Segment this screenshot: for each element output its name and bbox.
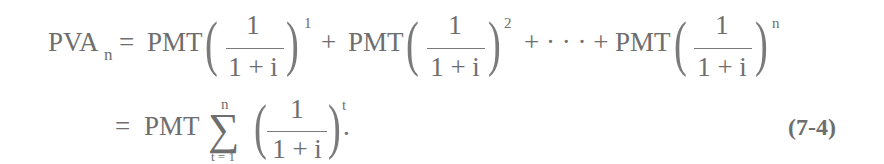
equals-sign: = — [115, 113, 130, 140]
exponent-n: n — [772, 16, 780, 31]
close-paren: ) — [488, 12, 501, 74]
equals-sign: = — [119, 29, 134, 56]
numerator: 1 — [715, 12, 729, 39]
denominator: 1 + i — [697, 54, 747, 81]
close-paren: ) — [328, 95, 341, 157]
pmt-term-1: PMT — [147, 29, 203, 56]
numerator: 1 — [290, 96, 304, 123]
denominator: 1 + i — [228, 54, 278, 81]
plus-sign: + — [321, 29, 336, 56]
open-paren: ( — [205, 12, 218, 74]
numerator: 1 — [448, 12, 462, 39]
pmt-term-2: PMT — [348, 29, 404, 56]
exponent-1: 1 — [304, 16, 312, 31]
fraction-bar — [267, 131, 327, 132]
numerator: 1 — [246, 12, 260, 39]
close-paren: ) — [755, 12, 768, 74]
terminator-period: . — [343, 113, 350, 140]
equation-number: (7-4) — [788, 115, 836, 139]
fraction-bar — [226, 48, 284, 49]
pmt-coef: PMT — [144, 113, 200, 140]
open-paren: ( — [674, 12, 687, 74]
open-paren: ( — [406, 12, 419, 74]
close-paren: ) — [286, 12, 299, 74]
lhs-subscript: n — [104, 46, 113, 63]
fraction-bar — [427, 48, 485, 49]
lhs-pva: PVA — [48, 29, 99, 56]
ellipsis-plus: + · · · + — [524, 29, 608, 56]
denominator: 1 + i — [272, 136, 322, 163]
open-paren: ( — [254, 95, 267, 157]
pmt-term-n: PMT — [615, 29, 671, 56]
exponent-2: 2 — [504, 16, 512, 31]
denominator: 1 + i — [430, 54, 480, 81]
sum-lower-limit: t = 1 — [211, 150, 235, 163]
summation-sign: ∑ — [208, 108, 239, 152]
fraction-bar — [694, 48, 752, 49]
